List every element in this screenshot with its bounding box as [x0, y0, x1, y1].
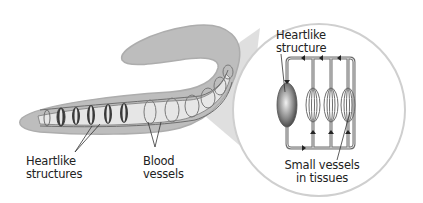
label-heartlike-structures: Heartlike structures: [26, 155, 82, 181]
label-small-vessels: Small vessels in tissues: [274, 159, 370, 185]
heartlike-structure-shape: [277, 83, 297, 127]
worm-body: [20, 25, 240, 134]
label-heartlike-structure: Heartlike structure: [276, 29, 326, 55]
label-blood-vessels: Blood vessels: [143, 155, 184, 181]
